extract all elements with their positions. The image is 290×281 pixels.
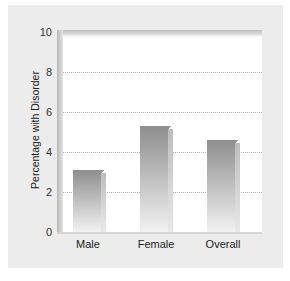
bar-overall-front <box>207 140 235 232</box>
bar-male-bevel <box>101 170 106 173</box>
bar-overall <box>207 140 240 232</box>
y-axis-label: Percentage with Disorder <box>29 50 41 210</box>
plot-frame-top <box>57 30 262 35</box>
x-label-overall: Overall <box>193 238 253 250</box>
bar-male-front <box>73 170 101 232</box>
bar-male-side <box>101 173 106 232</box>
bar-female <box>140 126 173 232</box>
bar-female-bevel <box>168 126 173 129</box>
bar-male <box>73 170 106 232</box>
x-axis-baseline <box>57 232 262 234</box>
bar-female-front <box>140 126 168 232</box>
bar-overall-side <box>235 143 240 232</box>
y-tick-10: 10 <box>32 26 52 38</box>
bar-overall-bevel <box>235 140 240 143</box>
x-label-female: Female <box>126 238 186 250</box>
gridline-8 <box>63 72 262 73</box>
plot-frame-left <box>57 30 63 234</box>
bar-female-side <box>168 129 173 232</box>
gridline-6 <box>63 112 262 113</box>
x-label-male: Male <box>58 238 118 250</box>
y-tick-0: 0 <box>32 226 52 238</box>
